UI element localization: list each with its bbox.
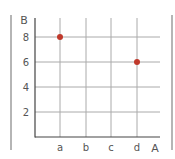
x-axis-label: A bbox=[151, 142, 159, 155]
y-tick-2: 2 bbox=[23, 107, 29, 118]
y-tick-4: 4 bbox=[23, 82, 29, 93]
y-tick-6: 6 bbox=[23, 57, 29, 68]
y-axis-label: B bbox=[20, 14, 28, 27]
x-tick-a: a bbox=[57, 142, 63, 153]
data-point-d-6 bbox=[134, 59, 140, 65]
vertical-gridlines bbox=[60, 18, 137, 137]
chart-canvas: B 8 6 4 2 a b c d A bbox=[0, 0, 175, 159]
horizontal-gridlines bbox=[35, 37, 160, 112]
x-tick-b: b bbox=[83, 142, 89, 153]
x-tick-d: d bbox=[134, 142, 140, 153]
x-tick-c: c bbox=[108, 142, 114, 153]
y-tick-8: 8 bbox=[23, 32, 29, 43]
data-point-a-8 bbox=[57, 34, 63, 40]
